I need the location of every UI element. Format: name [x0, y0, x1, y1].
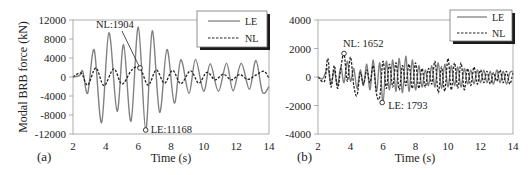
y-tick-label: 4000 — [44, 52, 67, 64]
y-tick-label: 8000 — [44, 33, 67, 45]
chart-a-x-axis-label: Time (s) — [151, 151, 192, 165]
y-tick-label: -12000 — [35, 128, 67, 140]
legend-le-label: LE — [245, 16, 257, 27]
x-tick-label: 10 — [443, 140, 455, 152]
y-tick-label: -4000 — [40, 90, 66, 102]
annotation-marker — [143, 128, 148, 133]
legend-le-label: LE — [492, 12, 504, 23]
chart-a-y-ticks: 12000800040000-4000-8000-12000 — [35, 14, 73, 140]
annotation-label: LE:11168 — [151, 124, 192, 135]
chart-a-legend: LE NL — [197, 11, 270, 50]
annotation-marker — [380, 100, 385, 105]
x-tick-label: 12 — [475, 140, 486, 152]
annotation-label: LE: 1793 — [388, 100, 427, 111]
chart-b-series — [318, 53, 513, 102]
x-tick-label: 10 — [198, 140, 210, 152]
annotation-label: NL:1904 — [96, 19, 135, 30]
x-tick-label: 6 — [136, 140, 142, 152]
x-tick-label: 6 — [380, 140, 386, 152]
annotation-label: NL: 1652 — [343, 38, 384, 49]
chart-b-legend: LE NL — [450, 10, 515, 44]
y-tick-label: -8000 — [40, 109, 66, 121]
legend-nl-label: NL — [492, 28, 505, 39]
y-tick-label: -2000 — [285, 100, 311, 112]
y-tick-label: 2000 — [289, 43, 312, 55]
y-tick-label: 0 — [306, 71, 312, 83]
y-tick-label: -4000 — [285, 128, 311, 140]
chart-b-y-ticks: 400020000-2000-4000 — [285, 14, 318, 140]
chart-a: 12000800040000-4000-8000-12000 246810121… — [16, 11, 275, 165]
legend-nl-label: NL — [245, 33, 258, 44]
y-tick-label: 12000 — [39, 14, 67, 26]
x-tick-label: 12 — [231, 140, 242, 152]
x-tick-label: 4 — [103, 140, 109, 152]
figure: 12000800040000-4000-8000-12000 246810121… — [0, 0, 532, 175]
chart-b: 400020000-2000-4000 2468101214 Time (s) … — [285, 10, 519, 165]
annotation-marker — [342, 51, 347, 56]
x-tick-label: 2 — [70, 140, 76, 152]
x-tick-label: 14 — [508, 140, 520, 152]
x-tick-label: 2 — [315, 140, 321, 152]
chart-b-panel-label: (b) — [297, 149, 312, 164]
chart-b-x-axis-label: Time (s) — [395, 151, 436, 165]
y-tick-label: 4000 — [289, 14, 312, 26]
chart-a-panel-label: (a) — [37, 149, 51, 164]
x-tick-label: 14 — [264, 140, 276, 152]
chart-a-y-axis-label: Modal BRB force (kN) — [16, 21, 30, 133]
y-tick-label: 0 — [61, 71, 67, 83]
x-tick-label: 4 — [348, 140, 354, 152]
annotation-marker — [138, 66, 143, 71]
series-nl-line — [318, 53, 513, 100]
